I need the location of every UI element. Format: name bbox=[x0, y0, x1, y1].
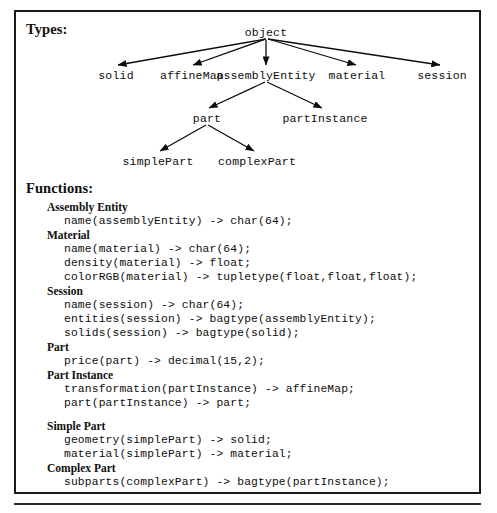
function-group-part-instance: Part Instance transformation(partInstanc… bbox=[47, 368, 473, 410]
type-node-session[interactable]: session bbox=[417, 69, 467, 82]
type-node-part[interactable]: part bbox=[193, 112, 221, 125]
function-group-title: Session bbox=[47, 284, 473, 298]
type-node-complexPart[interactable]: complexPart bbox=[218, 155, 296, 168]
function-signature: geometry(simplePart) -> solid; bbox=[47, 433, 473, 447]
edge-object-material bbox=[268, 39, 356, 65]
function-group-assembly-entity: Assembly Entity name(assemblyEntity) -> … bbox=[47, 200, 473, 228]
type-node-solid[interactable]: solid bbox=[98, 69, 134, 82]
function-signature: entities(session) -> bagtype(assemblyEnt… bbox=[47, 312, 473, 326]
type-node-object[interactable]: object bbox=[245, 26, 288, 39]
function-group-title: Simple Part bbox=[47, 419, 473, 433]
function-group-session: Session name(session) -> char(64); entit… bbox=[47, 284, 473, 340]
figure-frame: Types: bbox=[14, 10, 481, 494]
function-signature: part(partInstance) -> part; bbox=[47, 396, 473, 410]
function-group-title: Material bbox=[47, 228, 473, 242]
edge-part-complexPart bbox=[208, 125, 254, 151]
edge-assemblyEntity-part bbox=[209, 82, 265, 108]
functions-list: Assembly Entity name(assemblyEntity) -> … bbox=[47, 200, 473, 489]
function-group-title: Complex Part bbox=[47, 461, 473, 475]
function-signature: material(simplePart) -> material; bbox=[47, 447, 473, 461]
page-bottom-rule bbox=[14, 503, 481, 505]
function-group-material: Material name(material) -> char(64); den… bbox=[47, 228, 473, 284]
type-node-affineMap[interactable]: affineMap bbox=[160, 69, 224, 82]
function-signature: solids(session) -> bagtype(solid); bbox=[47, 326, 473, 340]
edge-object-affineMap bbox=[193, 39, 266, 65]
function-group-title: Part Instance bbox=[47, 368, 473, 382]
function-signature: transformation(partInstance) -> affineMa… bbox=[47, 382, 473, 396]
type-node-simplePart[interactable]: simplePart bbox=[122, 155, 193, 168]
function-signature: price(part) -> decimal(15,2); bbox=[47, 354, 473, 368]
type-node-assemblyEntity[interactable]: assemblyEntity bbox=[216, 69, 315, 82]
type-hierarchy-diagram: object solid affineMap assemblyEntity ma… bbox=[16, 12, 479, 182]
function-signature: name(session) -> char(64); bbox=[47, 298, 473, 312]
function-signature: name(material) -> char(64); bbox=[47, 242, 473, 256]
edge-object-solid bbox=[118, 39, 266, 65]
function-group-complex-part: Complex Part subparts(complexPart) -> ba… bbox=[47, 461, 473, 489]
function-signature: subparts(complexPart) -> bagtype(partIns… bbox=[47, 475, 473, 489]
function-group-title: Part bbox=[47, 340, 473, 354]
edge-assemblyEntity-partInstance bbox=[267, 82, 322, 108]
function-group-part: Part price(part) -> decimal(15,2); bbox=[47, 340, 473, 368]
function-group-simple-part: Simple Part geometry(simplePart) -> soli… bbox=[47, 419, 473, 461]
function-group-title: Assembly Entity bbox=[47, 200, 473, 214]
functions-section-label: Functions: bbox=[26, 180, 93, 197]
type-node-material[interactable]: material bbox=[329, 69, 386, 82]
function-signature: colorRGB(material) -> tupletype(float,fl… bbox=[47, 270, 473, 284]
edge-object-session bbox=[268, 39, 440, 65]
type-node-partInstance[interactable]: partInstance bbox=[282, 112, 367, 125]
function-signature: name(assemblyEntity) -> char(64); bbox=[47, 214, 473, 228]
function-signature: density(material) -> float; bbox=[47, 256, 473, 270]
edge-part-simplePart bbox=[160, 125, 206, 151]
